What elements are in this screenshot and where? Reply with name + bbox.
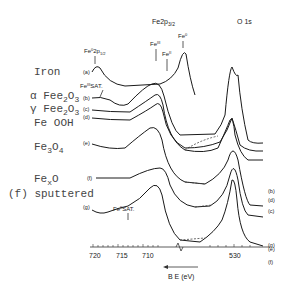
curve-b bbox=[92, 67, 263, 143]
curve-label-d: (d) bbox=[83, 114, 90, 120]
be-axis-label: B E (eV) bbox=[168, 273, 194, 281]
xps-spectra-figure: Fe2p3/2 O 1s Iron α Fee2O3 γ Fee2O3 Fe O… bbox=[0, 0, 291, 292]
x-axis-ticks bbox=[93, 244, 250, 247]
annotation-fe2: FeII bbox=[162, 50, 171, 57]
tick-710: 710 bbox=[142, 252, 154, 259]
curve-e bbox=[92, 128, 263, 207]
annotation-fe0-2p12: Fe02p1/2 bbox=[84, 47, 106, 56]
annotation-fe3-sat: FeIIISAT. bbox=[80, 82, 103, 89]
annotation-fe3: FeIII bbox=[150, 40, 160, 47]
curve-label-c-right: (c) bbox=[268, 208, 275, 214]
curve-label-f-right: (f) bbox=[268, 259, 273, 265]
tick-715: 715 bbox=[116, 252, 128, 259]
curve-label-a: (a) bbox=[83, 69, 90, 75]
label-fexo: FexO bbox=[34, 173, 59, 187]
curve-label-g: (g) bbox=[83, 204, 90, 210]
label-feooh: Fe OOH bbox=[34, 117, 74, 129]
be-arrow-head-icon bbox=[163, 265, 168, 269]
curve-label-f: (f) bbox=[87, 175, 92, 181]
label-fe3o4: Fe3O4 bbox=[34, 141, 64, 155]
curve-label-d-right: (d) bbox=[268, 197, 275, 203]
curve-g-dash bbox=[180, 238, 205, 240]
annotation-fe0: Fe0 bbox=[178, 32, 188, 39]
tick-530: 530 bbox=[229, 252, 241, 259]
label-sputtered: (f) sputtered bbox=[8, 188, 94, 200]
curve-g bbox=[92, 180, 263, 246]
arrow-fe3-sat bbox=[100, 90, 103, 97]
label-iron: Iron bbox=[34, 66, 60, 78]
fe2p-header: Fe2p3/2 bbox=[152, 18, 175, 27]
curve-label-c: (c) bbox=[83, 106, 90, 112]
curve-label-e: (e) bbox=[83, 140, 90, 146]
curve-label-b: (b) bbox=[83, 95, 90, 101]
o1s-header: O 1s bbox=[237, 18, 252, 25]
annotation-fe2-sat: FeIISAT. bbox=[113, 205, 135, 212]
label-gamma-fe2o3: γ Fee2O3 bbox=[30, 103, 79, 117]
tick-720: 720 bbox=[89, 252, 101, 259]
curve-label-b-right: (b) bbox=[268, 188, 275, 194]
label-alpha-fe2o3: α Fee2O3 bbox=[30, 90, 79, 104]
